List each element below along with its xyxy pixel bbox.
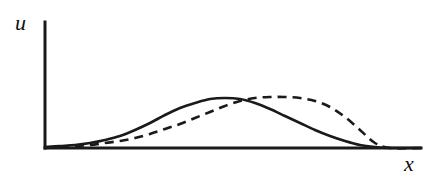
x-axis-label: x bbox=[404, 153, 414, 175]
plot-area bbox=[0, 0, 435, 181]
y-axis-label: u bbox=[15, 12, 26, 34]
axes-group bbox=[45, 22, 421, 148]
curves-group bbox=[45, 97, 421, 148]
wave-profile-figure: u x bbox=[0, 0, 435, 181]
solid-wave-curve bbox=[45, 98, 421, 148]
